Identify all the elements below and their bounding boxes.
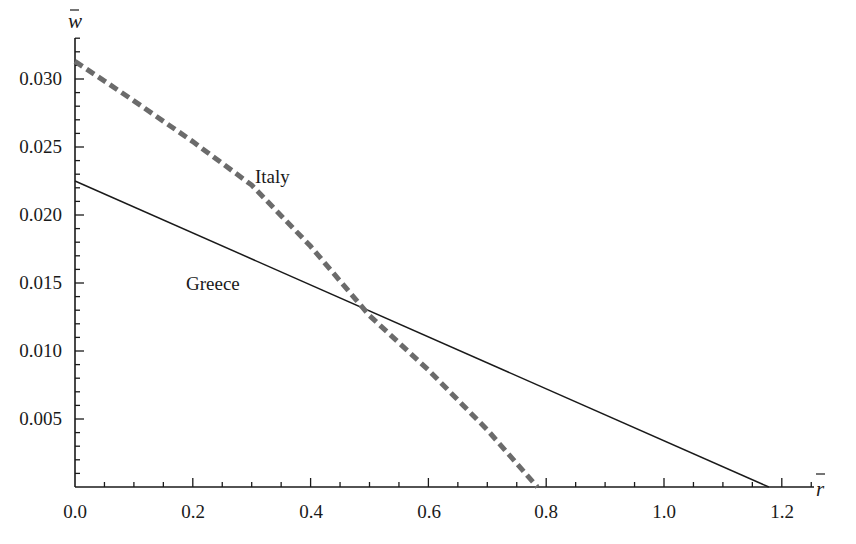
y-ticks — [75, 38, 84, 473]
x-tick-label: 0.6 — [417, 501, 441, 522]
x-tick-label: 0.4 — [299, 501, 323, 522]
x-axis-label: r — [816, 477, 825, 501]
y-tick-label: 0.015 — [19, 272, 62, 293]
x-ticks — [104, 478, 811, 487]
y-tick-label: 0.010 — [19, 340, 62, 361]
x-tick-label: 0.2 — [181, 501, 205, 522]
chart: 0.0 0.2 0.4 0.6 0.8 1.0 1.2 0.005 0.010 … — [0, 0, 856, 544]
x-tick-label: 1.2 — [770, 501, 794, 522]
y-tick-label: 0.020 — [19, 204, 62, 225]
italy-series-line — [75, 61, 537, 487]
y-axis-label: w — [68, 9, 82, 33]
y-tick-label: 0.005 — [19, 408, 62, 429]
greece-series-line — [75, 181, 769, 487]
x-tick-label: 0.8 — [534, 501, 558, 522]
italy-label: Italy — [255, 166, 290, 187]
x-tick-label: 1.0 — [652, 501, 676, 522]
greece-label: Greece — [186, 273, 240, 294]
y-tick-label: 0.030 — [19, 68, 62, 89]
x-tick-label: 0.0 — [63, 501, 87, 522]
y-tick-label: 0.025 — [19, 136, 62, 157]
